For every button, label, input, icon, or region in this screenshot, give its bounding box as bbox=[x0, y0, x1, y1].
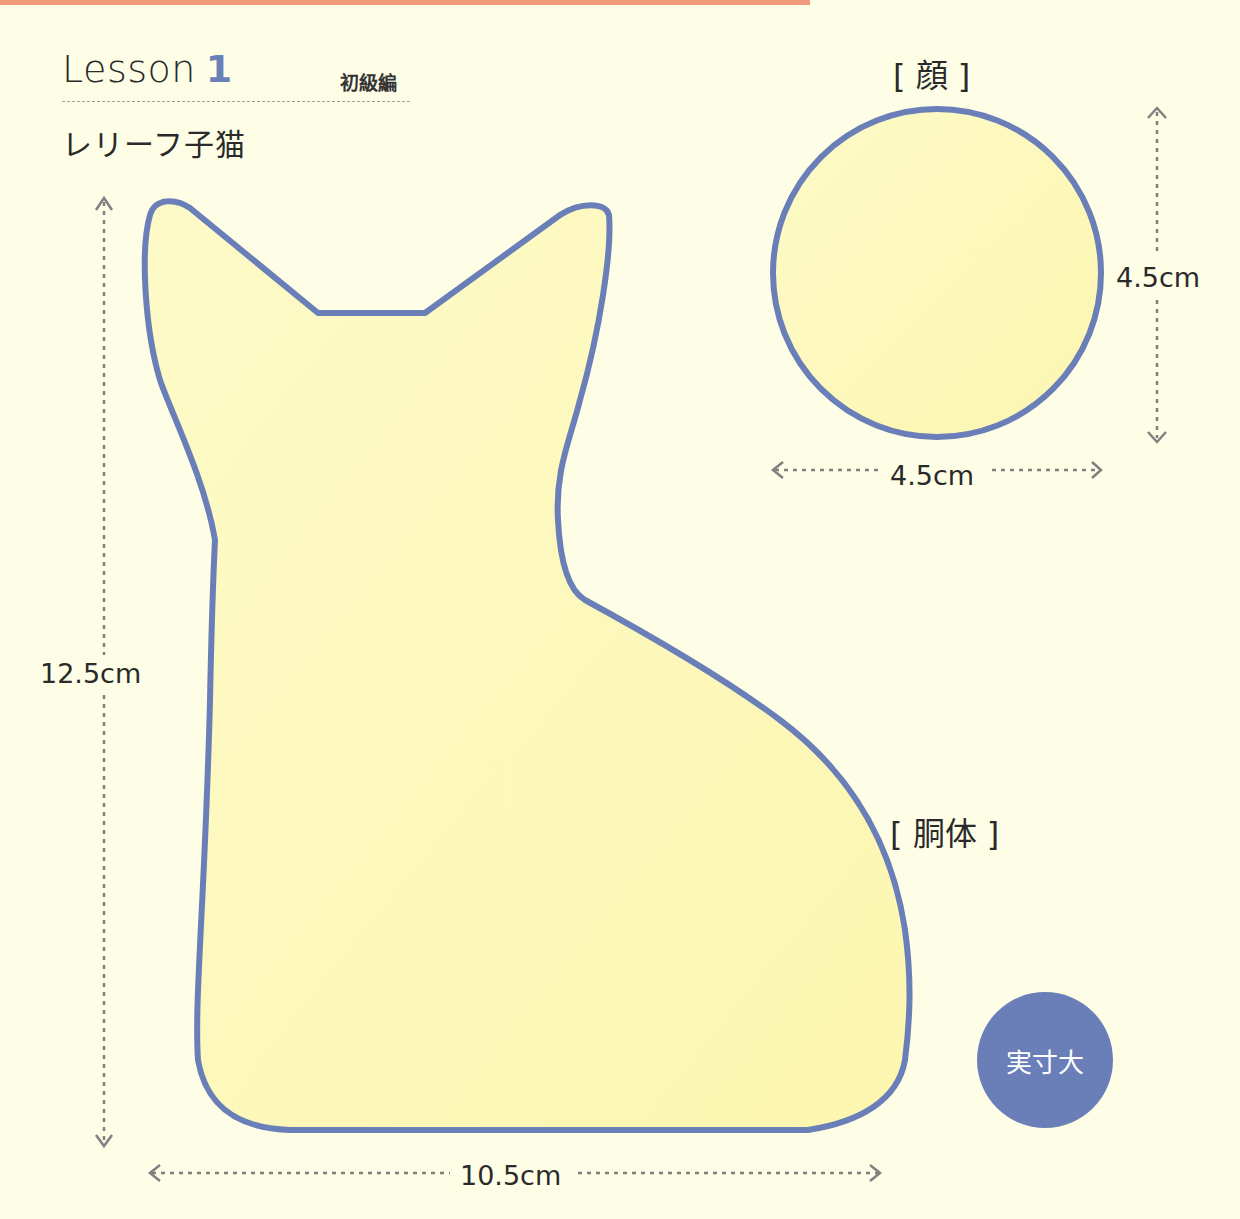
body-height-value: 12.5cm bbox=[40, 660, 141, 687]
face-label: [ 顔 ] bbox=[893, 50, 970, 96]
actual-size-text: 実寸大 bbox=[1006, 1042, 1084, 1079]
face-circle-shape bbox=[773, 109, 1101, 437]
actual-size-badge: 実寸大 bbox=[977, 992, 1113, 1128]
body-width-value: 10.5cm bbox=[460, 1162, 561, 1189]
face-height-value: 4.5cm bbox=[1116, 264, 1200, 291]
body-label: [ 胴体 ] bbox=[890, 808, 999, 854]
face-width-value: 4.5cm bbox=[890, 462, 974, 489]
